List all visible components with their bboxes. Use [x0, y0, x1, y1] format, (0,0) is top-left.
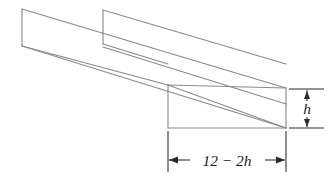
height-label: h — [303, 100, 311, 117]
near-wall-outer-top-edge — [22, 46, 168, 85]
near-face-diagonal-edge — [168, 85, 286, 128]
gutter-floor-inner-back-line — [103, 44, 168, 64]
width-label: 12 − 2h — [202, 152, 251, 169]
gutter-diagram-svg: h 12 − 2h — [0, 0, 331, 183]
width-arrow-left-icon — [169, 157, 178, 164]
far-wall-top-edge — [22, 9, 286, 88]
height-arrow-up-icon — [304, 91, 310, 99]
height-arrow-down-icon — [304, 119, 310, 127]
width-arrow-right-icon — [276, 157, 285, 164]
gutter-figure: h 12 − 2h — [0, 0, 331, 183]
